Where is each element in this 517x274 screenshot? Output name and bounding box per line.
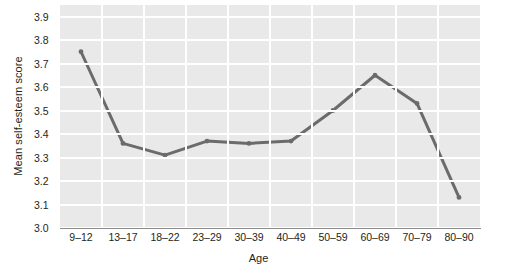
gridline-vertical: [353, 5, 355, 228]
x-axis-tick-label: 23–29: [192, 231, 221, 243]
data-point: [457, 195, 462, 200]
data-point: [205, 139, 210, 144]
x-axis-tick-label: 80–90: [444, 231, 473, 243]
y-axis-tick-label: 3.2: [34, 175, 60, 187]
x-axis-tick-label: 50–59: [318, 231, 347, 243]
x-axis-tick-label: 60–69: [360, 231, 389, 243]
data-point: [247, 141, 252, 146]
data-point: [373, 73, 378, 78]
data-point: [79, 49, 84, 54]
plot-area: [60, 5, 480, 228]
y-axis-tick-labels: 3.03.13.23.33.43.53.63.73.83.9: [34, 0, 60, 240]
gridline-vertical: [185, 5, 187, 228]
x-axis-tick-label: 40–49: [276, 231, 305, 243]
gridline-vertical: [269, 5, 271, 228]
y-axis-tick-label: 3.4: [34, 128, 60, 140]
y-axis-tick-label: 3.1: [34, 199, 60, 211]
chart-figure: Mean self-esteem score 3.03.13.23.33.43.…: [0, 0, 517, 274]
y-axis-tick-label: 3.8: [34, 34, 60, 46]
y-axis-tick-label: 3.7: [34, 58, 60, 70]
data-point: [289, 139, 294, 144]
x-axis-tick-label: 9–12: [69, 231, 92, 243]
x-axis-tick-label: 18–22: [150, 231, 179, 243]
gridline-vertical: [395, 5, 397, 228]
y-axis-tick-label: 3.3: [34, 152, 60, 164]
gridline-vertical: [311, 5, 313, 228]
gridline-vertical: [101, 5, 103, 228]
gridline-vertical: [227, 5, 229, 228]
y-axis-tick-label: 3.5: [34, 105, 60, 117]
y-axis-title: Mean self-esteem score: [0, 0, 36, 232]
gridline-vertical: [437, 5, 439, 228]
y-axis-tick-label: 3.6: [34, 81, 60, 93]
x-axis-tick-label: 30–39: [234, 231, 263, 243]
data-point: [415, 101, 420, 106]
x-axis-line: [60, 228, 481, 229]
x-axis-title: Age: [0, 252, 517, 264]
x-axis-tick-label: 13–17: [108, 231, 137, 243]
gridline-vertical: [143, 5, 145, 228]
x-axis-tick-label: 70–79: [402, 231, 431, 243]
y-axis-title-label: Mean self-esteem score: [12, 56, 24, 176]
data-point: [121, 141, 126, 146]
x-axis-tick-labels: 9–1213–1718–2223–2930–3940–4950–5960–697…: [0, 231, 517, 247]
y-axis-tick-label: 3.9: [34, 11, 60, 23]
